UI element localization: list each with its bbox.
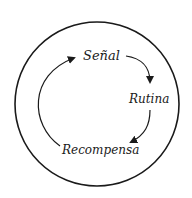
arrow-recompensa-to-senal	[38, 58, 74, 146]
node-rutina: Rutina	[129, 93, 169, 105]
node-senal: Señal	[83, 49, 120, 62]
habit-loop-diagram: Señal Rutina Recompensa	[0, 0, 192, 198]
arrow-rutina-to-recompensa	[131, 110, 150, 142]
arrow-senal-to-rutina	[126, 56, 150, 82]
node-recompensa: Recompensa	[62, 144, 139, 156]
